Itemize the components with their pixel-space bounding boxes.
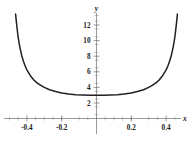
x-tick-label: 0.2 (127, 124, 136, 132)
plot-canvas: -0.4 -0.2 0.2 0.4 2 4 6 8 10 12 x y (0, 0, 194, 151)
x-axis-label: x (182, 114, 187, 123)
y-tick-label: 4 (87, 84, 91, 92)
axes-group (4, 13, 181, 134)
y-tick-label: 8 (87, 53, 91, 61)
plot-figure: -0.4 -0.2 0.2 0.4 2 4 6 8 10 12 x y (0, 0, 194, 151)
x-axis-tick-labels: -0.4 -0.2 0.2 0.4 (21, 124, 171, 132)
y-axis-label: y (94, 4, 99, 13)
y-tick-label: 12 (83, 22, 91, 30)
y-tick-label: 6 (87, 68, 91, 76)
y-tick-label: 10 (83, 37, 91, 45)
x-tick-label: -0.2 (56, 124, 68, 132)
y-tick-label: 2 (87, 100, 91, 108)
x-tick-label: -0.4 (21, 124, 33, 132)
x-tick-label: 0.4 (162, 124, 171, 132)
